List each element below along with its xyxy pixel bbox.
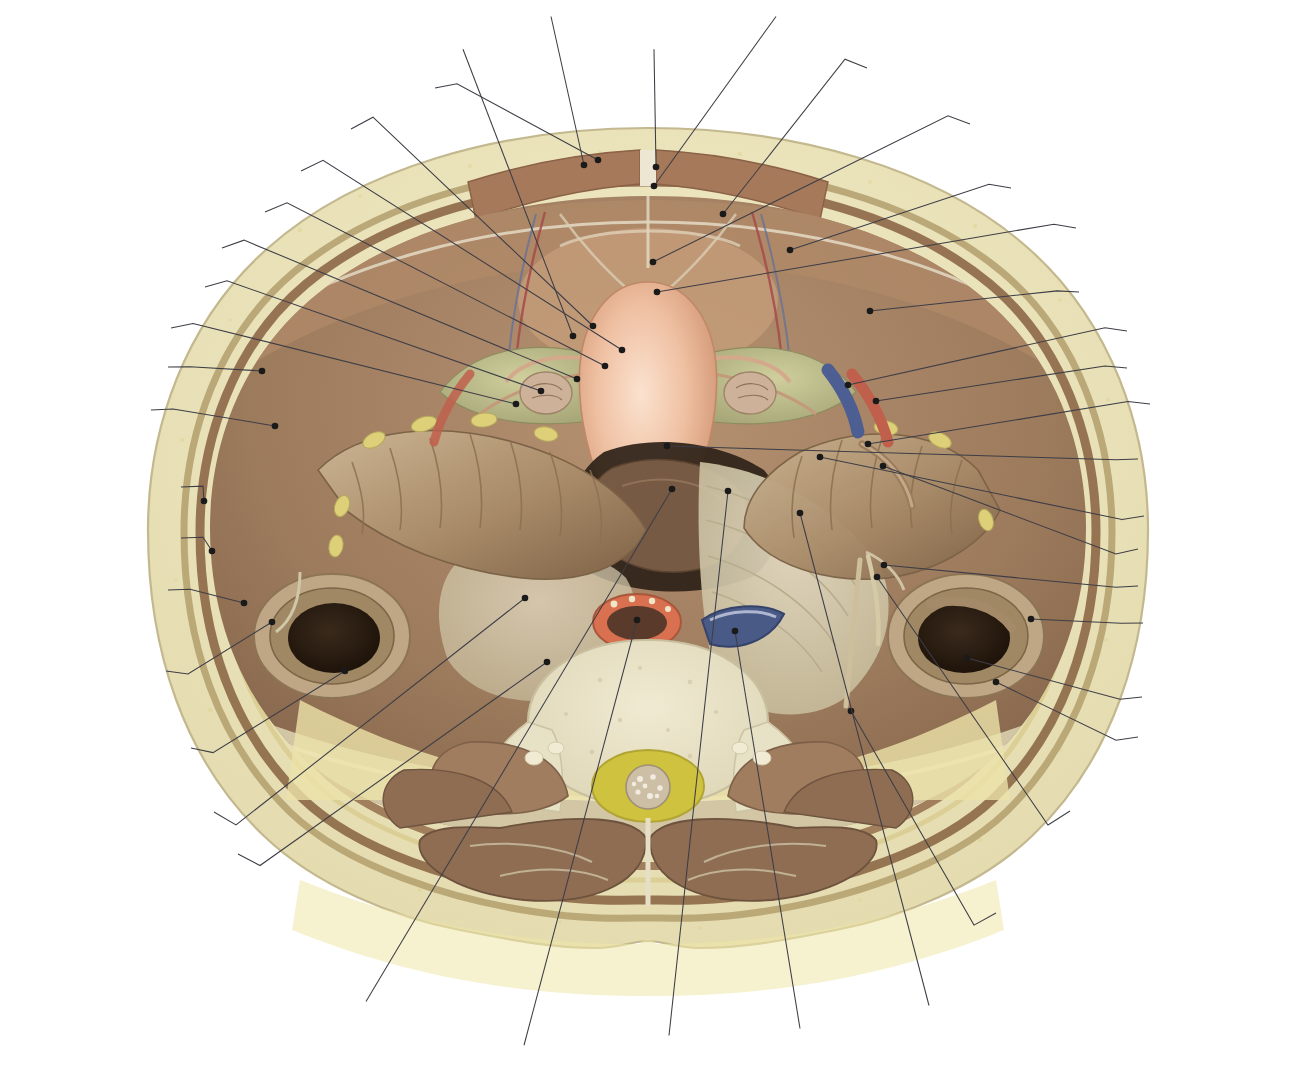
leader-bexiga bbox=[650, 116, 970, 266]
leader-dot-m-reto-abdome bbox=[581, 162, 588, 169]
leader-dot-linha-alba bbox=[653, 164, 660, 171]
leader-escavacao-retouterina bbox=[664, 443, 1138, 460]
leader-dot-a-vv-epigastricas bbox=[787, 247, 794, 254]
leader-fascia-transversal bbox=[168, 367, 265, 375]
leader-lig-umbilical-mediano bbox=[651, 17, 776, 190]
leader-dot-m-obliquo-externo bbox=[201, 498, 208, 505]
leader-dot-a-iliaca-externa bbox=[873, 398, 880, 405]
leader-dot-parte-abdominal-aorta bbox=[634, 617, 641, 624]
leader-dot-lig-largo-utero bbox=[538, 388, 545, 395]
leader-dot-sulco-paracolico-dir bbox=[1028, 616, 1035, 623]
leader-dot-prega-retouterina bbox=[797, 510, 804, 517]
leader-peritonio-parietal bbox=[151, 409, 278, 429]
leader-ileo bbox=[964, 655, 1142, 700]
leader-sulco-paracolico-dir bbox=[1028, 616, 1143, 624]
leader-dot-tuba-uterina bbox=[574, 376, 581, 383]
leader-dot-lig-utero-ovarico bbox=[619, 347, 626, 354]
leader-dot-lig-redondo-utero bbox=[590, 323, 597, 330]
leader-a-iliaca-comum bbox=[238, 659, 550, 866]
leader-dot-m-transverso bbox=[241, 600, 248, 607]
leader-linha-alba bbox=[653, 49, 660, 170]
leader-dot-ureter-pelvica bbox=[874, 574, 881, 581]
leader-utero bbox=[463, 49, 576, 339]
figure-canvas bbox=[0, 0, 1295, 1089]
leader-colo-descendente bbox=[191, 668, 348, 753]
leader-dot-ileo bbox=[964, 655, 971, 662]
leader-dot-fascia-transversal bbox=[259, 368, 266, 375]
leader-dot-lig-umbilical-medial bbox=[720, 211, 727, 218]
leader-dot-v-cava-inferior bbox=[732, 628, 739, 635]
leader-dot-escavacao-retouterina bbox=[664, 443, 671, 450]
leader-dot-mesoapendice bbox=[880, 463, 887, 470]
leader-escavacao-vesicouterina bbox=[654, 224, 1076, 295]
leader-m-obliquo-externo bbox=[181, 486, 207, 504]
leader-fossa-paravesical bbox=[435, 84, 601, 164]
leader-ureter-pelvica bbox=[874, 574, 1070, 825]
leader-m-transverso bbox=[168, 589, 247, 606]
leader-dot-v-iliaca-externa bbox=[845, 382, 852, 389]
leader-parte-abdominal-aorta bbox=[524, 617, 640, 1046]
leader-lines-layer bbox=[0, 0, 1295, 1089]
leader-mesossalpinge bbox=[265, 203, 608, 370]
leader-dot-lig-umbilical-mediano bbox=[651, 183, 658, 190]
leader-ureter-abdominal bbox=[848, 708, 996, 925]
leader-ceco bbox=[817, 454, 1144, 520]
leader-dot-utero bbox=[570, 333, 577, 340]
leader-lig-largo-utero bbox=[205, 281, 544, 395]
leader-dot-mesocolo-sigmoide bbox=[522, 595, 529, 602]
leader-ampola-do-reto bbox=[366, 486, 675, 1002]
leader-mesoapendice bbox=[880, 463, 1138, 554]
leader-dot-colo-ascendente bbox=[993, 679, 1000, 686]
leader-dot-pregas-cecais bbox=[881, 562, 888, 569]
leader-dot-ovario bbox=[513, 401, 520, 408]
leader-anel-inguinal-profundo bbox=[867, 291, 1079, 314]
leader-dot-a-iliaca-comum bbox=[544, 659, 551, 666]
leader-m-reto-abdome bbox=[551, 17, 587, 169]
leader-v-cava-inferior bbox=[732, 628, 800, 1029]
leader-dot-apendice-vermiforme bbox=[865, 441, 872, 448]
leader-dot-peritonio-parietal bbox=[272, 423, 279, 430]
leader-dot-ampola-do-reto bbox=[669, 486, 676, 493]
leader-lig-umbilical-medial bbox=[720, 59, 867, 217]
leader-dot-fossa-paravesical bbox=[595, 157, 602, 164]
leader-lig-redondo-utero bbox=[351, 117, 596, 329]
leader-a-iliaca-externa bbox=[873, 366, 1127, 404]
leader-sulco-paracolico-esq bbox=[166, 619, 275, 674]
leader-dot-colo-descendente bbox=[342, 668, 349, 675]
leader-a-vv-epigastricas bbox=[787, 184, 1011, 253]
leader-m-obliquo-interno bbox=[181, 537, 215, 554]
leader-apendice-vermiforme bbox=[865, 402, 1150, 448]
leader-dot-ceco bbox=[817, 454, 824, 461]
leader-dot-mesossalpinge bbox=[602, 363, 609, 370]
leader-dot-sulco-paracolico-esq bbox=[269, 619, 276, 626]
leader-dot-m-obliquo-interno bbox=[209, 548, 216, 555]
leader-colo-ascendente bbox=[993, 679, 1138, 741]
leader-dot-bexiga bbox=[650, 259, 657, 266]
leader-dot-escavacao-vesicouterina bbox=[654, 289, 661, 296]
leader-dot-anel-inguinal-profundo bbox=[867, 308, 874, 315]
leader-v-iliaca-externa bbox=[845, 328, 1127, 389]
leader-dot-fossa-pararretal bbox=[725, 488, 732, 495]
leader-prega-retouterina bbox=[797, 510, 929, 1006]
leader-pregas-cecais bbox=[881, 562, 1138, 588]
leader-fossa-pararretal bbox=[669, 488, 731, 1036]
